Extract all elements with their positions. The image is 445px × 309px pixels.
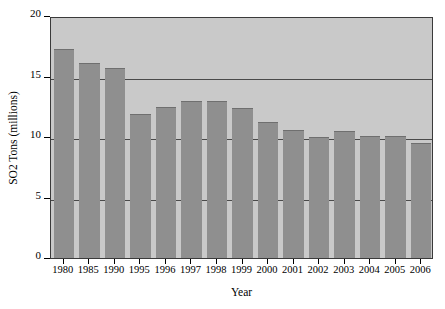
bar-1985 xyxy=(79,63,99,258)
x-tick-label: 1990 xyxy=(103,265,124,276)
x-tick-label: 1996 xyxy=(154,265,175,276)
y-tick-label: 10 xyxy=(30,129,41,140)
x-tick-label: 1985 xyxy=(78,265,99,276)
bar-2001 xyxy=(283,130,303,258)
bar-1995 xyxy=(130,114,150,258)
bar-1996 xyxy=(156,107,176,258)
x-axis-title-label: Year xyxy=(231,286,252,298)
y-tick-label: 20 xyxy=(30,8,41,19)
y-tick-label: 15 xyxy=(30,69,41,80)
y-tick-label: 5 xyxy=(36,190,42,201)
bar-1999 xyxy=(232,108,252,258)
x-tick-label: 2002 xyxy=(308,265,329,276)
y-axis: 05101520 xyxy=(0,0,50,309)
bars-layer xyxy=(51,18,432,258)
bar-2006 xyxy=(411,143,431,258)
x-tick-label: 1999 xyxy=(231,265,252,276)
bar-2000 xyxy=(258,122,278,258)
x-tick-label: 2003 xyxy=(333,265,354,276)
x-axis: 1980198519901995199619971998199920002001… xyxy=(50,259,433,289)
x-tick-label: 2001 xyxy=(282,265,303,276)
y-tick-label: 0 xyxy=(36,250,42,261)
x-tick-label: 2000 xyxy=(257,265,278,276)
x-tick-label: 1997 xyxy=(180,265,201,276)
bar-2002 xyxy=(309,137,329,258)
bar-1997 xyxy=(181,101,201,258)
bar-2005 xyxy=(385,136,405,258)
x-tick-label: 2005 xyxy=(384,265,405,276)
x-tick-label: 2004 xyxy=(359,265,380,276)
x-tick-label: 1995 xyxy=(129,265,150,276)
bar-1998 xyxy=(207,101,227,258)
x-tick-label: 2006 xyxy=(410,265,431,276)
bar-1980 xyxy=(54,49,74,258)
bar-1990 xyxy=(105,68,125,258)
x-tick-label: 1980 xyxy=(52,265,73,276)
x-tick-label: 1998 xyxy=(205,265,226,276)
bar-2004 xyxy=(360,136,380,258)
so2-emissions-bar-chart: SO2 Tons (millions) 05101520 19801985199… xyxy=(0,0,445,309)
bar-2003 xyxy=(334,131,354,258)
x-axis-title: Year xyxy=(50,286,433,298)
plot-area xyxy=(50,17,433,259)
